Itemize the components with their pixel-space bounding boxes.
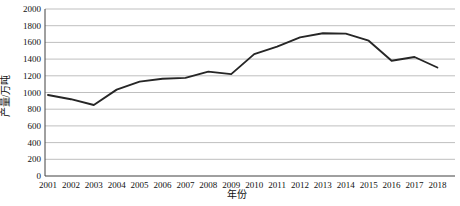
y-tick-label-1800: 1800 (23, 21, 42, 31)
x-tick-label-2004: 2004 (108, 180, 127, 190)
x-axis-title: 年份 (227, 188, 247, 200)
tick-labels: 0200400600800100012001400160018002000200… (23, 4, 447, 190)
x-tick-label-2017: 2017 (405, 180, 424, 190)
x-tick-label-2003: 2003 (85, 180, 104, 190)
x-tick-label-2010: 2010 (245, 180, 264, 190)
y-tick-label-2000: 2000 (23, 4, 42, 14)
y-axis-title: 产量/万吨 (0, 75, 11, 118)
x-tick-label-2014: 2014 (337, 180, 356, 190)
y-tick-label-1400: 1400 (23, 54, 42, 64)
data-series (48, 33, 437, 105)
y-tick-label-1200: 1200 (23, 71, 42, 81)
x-tick-label-2006: 2006 (154, 180, 173, 190)
x-tick-label-2016: 2016 (383, 180, 402, 190)
y-tick-label-400: 400 (28, 138, 42, 148)
x-tick-label-2018: 2018 (428, 180, 447, 190)
gridlines (45, 9, 455, 159)
production-line-chart: 0200400600800100012001400160018002000200… (0, 0, 460, 206)
x-tick-label-2013: 2013 (314, 180, 333, 190)
y-tick-label-800: 800 (28, 104, 42, 114)
production-series-line (48, 33, 437, 105)
x-tick-label-2001: 2001 (39, 180, 57, 190)
y-tick-label-1000: 1000 (23, 88, 42, 98)
y-tick-label-1600: 1600 (23, 37, 42, 47)
plot-area: 0200400600800100012001400160018002000200… (0, 0, 460, 206)
x-tick-label-2011: 2011 (268, 180, 286, 190)
x-tick-label-2015: 2015 (360, 180, 379, 190)
y-tick-label-200: 200 (28, 154, 42, 164)
x-tick-label-2005: 2005 (131, 180, 150, 190)
x-tick-label-2002: 2002 (62, 180, 80, 190)
x-tick-label-2007: 2007 (176, 180, 195, 190)
y-tick-label-600: 600 (28, 121, 42, 131)
x-tick-label-2008: 2008 (199, 180, 218, 190)
x-tick-label-2012: 2012 (291, 180, 309, 190)
